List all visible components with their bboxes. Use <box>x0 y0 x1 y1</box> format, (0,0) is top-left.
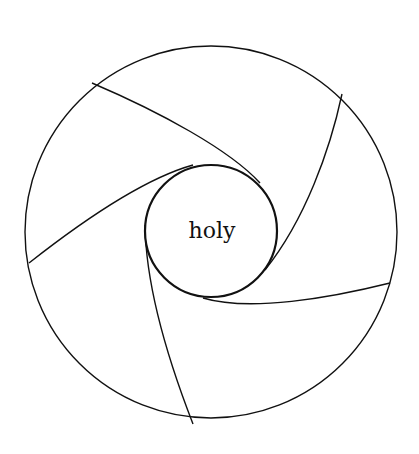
center-label: holy <box>189 218 236 243</box>
spiral-arm-arm-1 <box>92 83 260 183</box>
spiral-circle-diagram: holy <box>0 0 419 454</box>
